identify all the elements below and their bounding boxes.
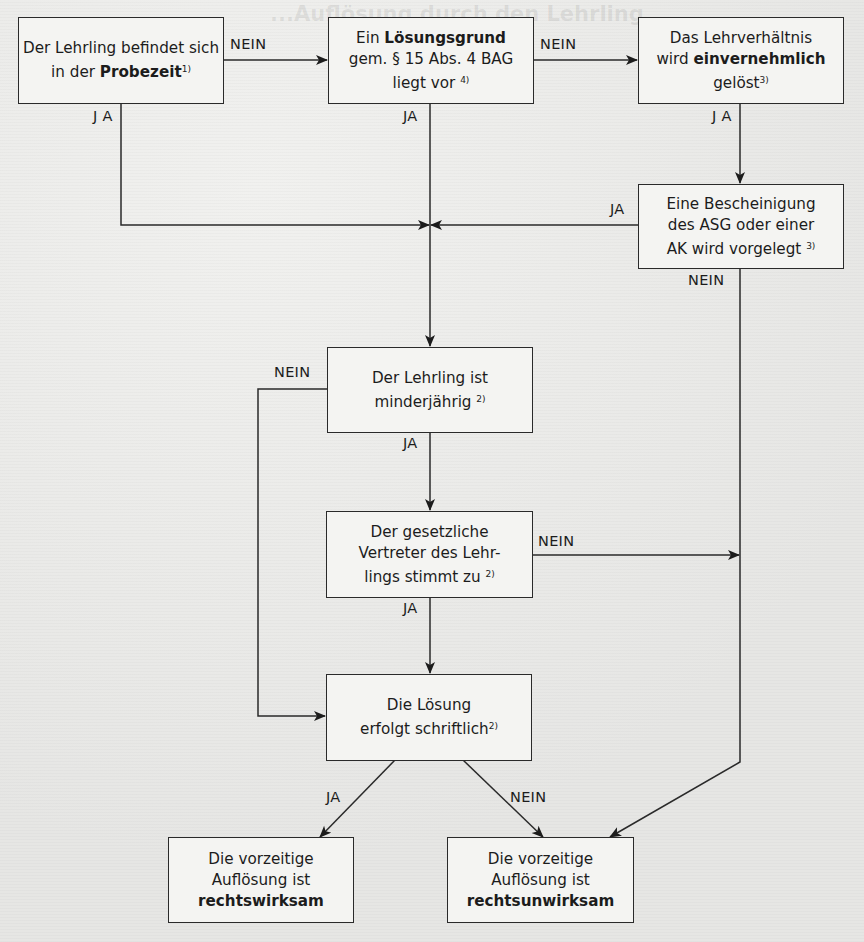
node-keyword: rechtsunwirksam — [467, 892, 614, 910]
node-vertreter: Der gesetzliche Vertreter des Lehr- ling… — [326, 511, 533, 598]
edge-label-loesungsgrund-ja: JA — [403, 108, 418, 124]
node-text: liegt vor — [393, 74, 456, 92]
edge-label-schriftlich-ja: JA — [326, 789, 341, 805]
node-text: Das Lehrverhältnis — [670, 29, 812, 47]
node-text: minderjährig — [374, 393, 471, 411]
node-text: gelöst — [713, 74, 759, 92]
node-loesungsgrund: Ein Lösungsgrund gem. § 15 Abs. 4 BAG li… — [328, 17, 534, 104]
node-text: erfolgt schriftlich — [360, 720, 489, 738]
flowchart-connectors — [0, 0, 864, 942]
footnote-ref: 2) — [486, 569, 495, 579]
node-keyword: Probezeit — [100, 63, 182, 81]
edge-label-vertreter-ja: JA — [403, 600, 418, 616]
node-text: gem. § 15 Abs. 4 BAG — [349, 50, 513, 68]
node-keyword: rechtswirksam — [198, 892, 324, 910]
node-text: Vertreter des Lehr- — [358, 544, 500, 562]
node-rechtswirksam: Die vorzeitige Auflösung ist rechtswirks… — [168, 837, 354, 923]
edge-label-schriftlich-nein: NEIN — [510, 789, 546, 805]
node-text: Die Lösung — [387, 696, 471, 714]
node-text: lings stimmt zu — [364, 568, 481, 586]
edge-label-einvernehmlich-ja: J A — [712, 108, 732, 124]
node-rechtsunwirksam: Die vorzeitige Auflösung ist rechtsunwir… — [447, 837, 634, 923]
node-probezeit: Der Lehrling befindet sich in der Probez… — [18, 17, 224, 104]
edge-label-minderjaehrig-nein: NEIN — [274, 364, 310, 380]
footnote-ref: 2) — [476, 394, 485, 404]
node-keyword: einvernehmlich — [694, 50, 826, 68]
footnote-ref: 3) — [760, 75, 769, 85]
node-text: Der Lehrling ist — [372, 369, 488, 387]
node-text: wird — [656, 50, 693, 68]
footnote-ref: 4) — [460, 75, 469, 85]
edge-label-loesungsgrund-nein: NEIN — [540, 36, 576, 52]
edge-label-bescheinigung-nein: NEIN — [688, 272, 724, 288]
edge-label-minderjaehrig-ja: JA — [403, 435, 418, 451]
footnote-ref: 3) — [806, 241, 815, 251]
node-text: Ein — [356, 29, 384, 47]
node-keyword: Lösungsgrund — [384, 29, 506, 47]
node-text: Eine Bescheinigung — [666, 195, 815, 213]
edge-label-vertreter-nein: NEIN — [538, 533, 574, 549]
node-einvernehmlich: Das Lehrverhältnis wird einvernehmlich g… — [638, 17, 844, 104]
footnote-ref: 1) — [182, 64, 191, 74]
node-text: Der gesetzliche — [370, 523, 488, 541]
node-text: Auflösung ist — [212, 871, 311, 889]
edge-label-bescheinigung-ja: JA — [610, 201, 625, 217]
edge-label-probezeit-nein: NEIN — [230, 36, 266, 52]
node-minderjaehrig: Der Lehrling ist minderjährig 2) — [327, 347, 533, 433]
node-schriftlich: Die Lösung erfolgt schriftlich2) — [326, 674, 532, 761]
node-text: des ASG oder einer — [668, 216, 814, 234]
node-text: Die vorzeitige — [208, 850, 313, 868]
edge-label-probezeit-ja: J A — [93, 108, 113, 124]
node-text: Die vorzeitige — [488, 850, 593, 868]
node-bescheinigung: Eine Bescheinigung des ASG oder einer AK… — [638, 184, 844, 269]
node-text: Auflösung ist — [491, 871, 590, 889]
node-text: AK wird vorgelegt — [667, 240, 802, 258]
footnote-ref: 2) — [489, 721, 498, 731]
